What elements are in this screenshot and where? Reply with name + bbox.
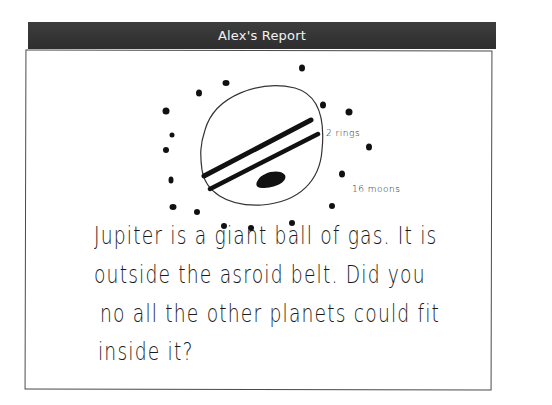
rings-label: 2 rings	[326, 128, 360, 138]
report-text-line-3: no all the other planets could fit	[100, 300, 440, 328]
report-text-line-4: inside it?	[98, 338, 194, 366]
planet-icon	[201, 86, 323, 205]
report-text-line-1: Jupiter is a giant ball of gas. It is	[94, 222, 437, 250]
moons	[163, 65, 373, 232]
jupiter-drawing	[0, 0, 552, 405]
report-text-line-2: outside the asroid belt. Did you	[94, 261, 426, 289]
moons-label: 16 moons	[352, 184, 401, 194]
